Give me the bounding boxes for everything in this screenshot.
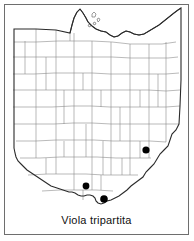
- distribution-map-figure: Viola tripartita: [0, 0, 194, 241]
- lake-erie-shoreline: [70, 8, 181, 37]
- occurrence-dot: [100, 195, 108, 203]
- ohio-county-boundaries: [13, 29, 180, 200]
- occurrence-dot: [142, 146, 149, 153]
- ohio-map-svg: [0, 0, 194, 215]
- lake-erie-islands: [88, 12, 100, 27]
- species-name-caption: Viola tripartita: [5, 213, 188, 227]
- ohio-map: [0, 0, 194, 215]
- occurrence-dot: [83, 183, 90, 190]
